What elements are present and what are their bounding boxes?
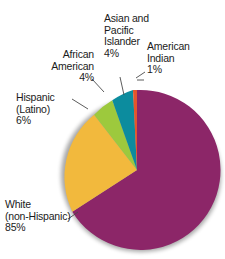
slice-label-line: Pacific bbox=[104, 24, 134, 36]
slice-label-line: (non-Hispanic) bbox=[5, 210, 70, 222]
slice-label-american-indian: American Indian 1% bbox=[147, 41, 190, 76]
leader-line-asian-pacific bbox=[120, 77, 124, 95]
slice-percent: 6% bbox=[16, 115, 55, 127]
slice-percent: 4% bbox=[104, 48, 149, 60]
slice-label-white-non-hispanic: White (non-Hispanic) 85% bbox=[5, 199, 70, 234]
slice-percent: 1% bbox=[147, 64, 190, 76]
slice-label-line: Islander bbox=[104, 35, 140, 47]
leader-line-hispanic bbox=[72, 99, 88, 109]
slice-label-hispanic-latino: Hispanic (Latino) 6% bbox=[16, 92, 55, 127]
pie-chart: African American 4% Asian and Pacific Is… bbox=[0, 0, 225, 259]
leader-line-american-indian-upper bbox=[136, 72, 145, 78]
slice-label-line: American bbox=[147, 40, 190, 52]
slice-percent: 85% bbox=[5, 222, 70, 234]
slice-label-line: White bbox=[5, 198, 31, 210]
slice-label-african-american: African American 4% bbox=[51, 49, 94, 84]
slice-label-asian-pacific-islander: Asian and Pacific Islander 4% bbox=[104, 13, 149, 59]
slice-percent: 4% bbox=[51, 72, 94, 84]
slice-label-line: African bbox=[63, 48, 94, 60]
slice-label-line: (Latino) bbox=[16, 103, 50, 115]
slice-label-line: Asian and bbox=[104, 12, 149, 24]
slice-label-line: American bbox=[51, 60, 94, 72]
slice-label-line: Hispanic bbox=[16, 91, 55, 103]
slice-label-line: Indian bbox=[147, 52, 174, 64]
